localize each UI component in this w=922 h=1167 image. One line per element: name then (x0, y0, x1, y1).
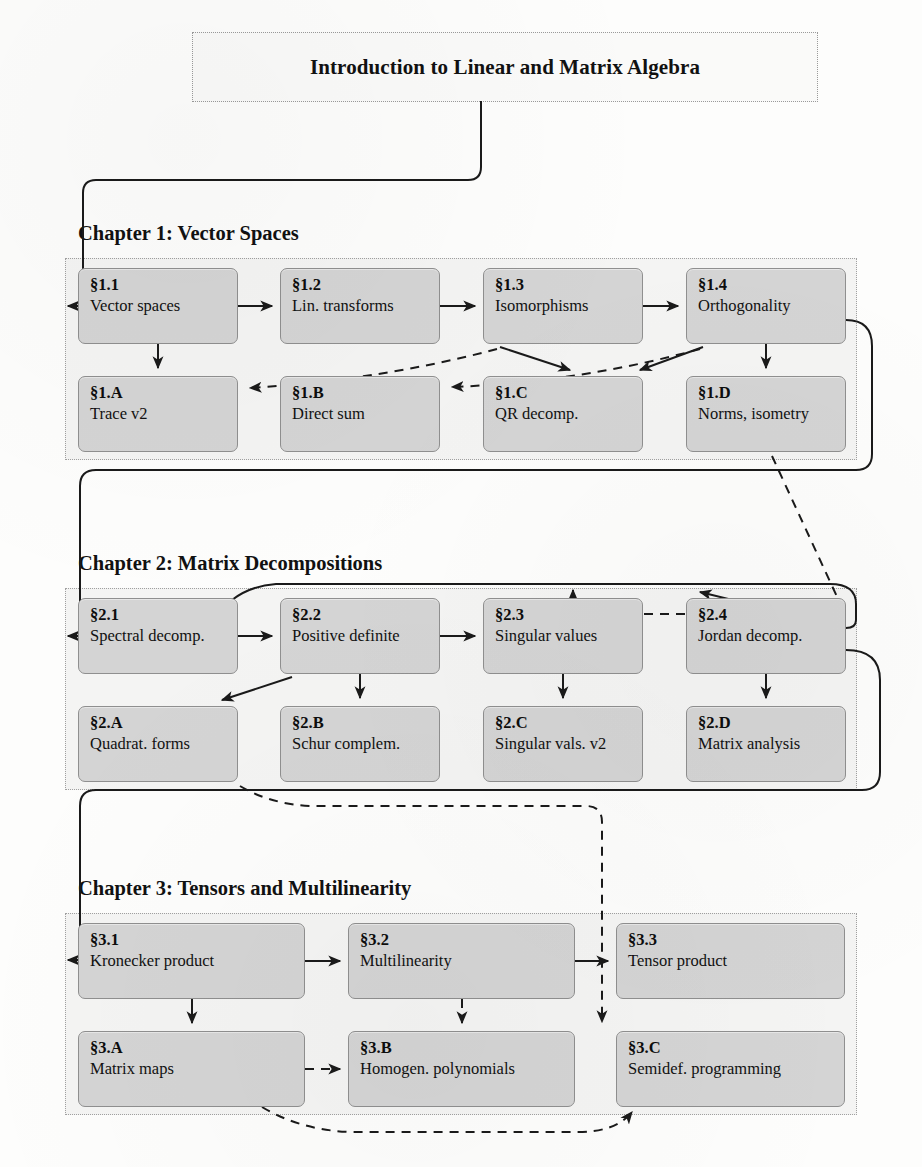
section-node-1-1[interactable]: §1.1Vector spaces (78, 268, 238, 344)
section-number: §1.A (90, 384, 227, 402)
section-number: §2.C (495, 714, 632, 732)
diagram-page: Introduction to Linear and Matrix Algebr… (0, 0, 922, 1167)
section-description: Jordan decomp. (698, 626, 835, 646)
section-number: §2.1 (90, 606, 227, 624)
section-node-3-B[interactable]: §3.BHomogen. polynomials (348, 1031, 575, 1107)
section-node-3-C[interactable]: §3.CSemidef. programming (616, 1031, 845, 1107)
section-description: Trace v2 (90, 404, 227, 424)
section-node-2-A[interactable]: §2.AQuadrat. forms (78, 706, 238, 782)
section-description: Quadrat. forms (90, 734, 227, 754)
section-description: Spectral decomp. (90, 626, 227, 646)
section-number: §3.1 (90, 931, 294, 949)
section-number: §2.3 (495, 606, 632, 624)
section-number: §3.C (628, 1039, 834, 1057)
section-number: §2.2 (292, 606, 429, 624)
edge-2-4-to-3-1 (68, 650, 880, 960)
section-node-1-B[interactable]: §1.BDirect sum (280, 376, 440, 452)
edge-1-4-to-2-1 (68, 320, 872, 636)
section-node-2-2[interactable]: §2.2Positive definite (280, 598, 440, 674)
section-number: §1.B (292, 384, 429, 402)
edge-2-2-to-2-A (222, 677, 292, 700)
section-number: §1.C (495, 384, 632, 402)
edge-1-D-to-2-3 (573, 456, 845, 614)
section-description: Homogen. polynomials (360, 1059, 564, 1079)
section-number: §1.4 (698, 276, 835, 294)
section-description: Matrix maps (90, 1059, 294, 1079)
section-node-2-3[interactable]: §2.3Singular values (483, 598, 643, 674)
section-number: §2.D (698, 714, 835, 732)
section-node-1-D[interactable]: §1.DNorms, isometry (686, 376, 846, 452)
section-node-3-2[interactable]: §3.2Multilinearity (348, 923, 575, 999)
section-number: §2.A (90, 714, 227, 732)
section-node-2-1[interactable]: §2.1Spectral decomp. (78, 598, 238, 674)
section-description: Vector spaces (90, 296, 227, 316)
section-node-1-4[interactable]: §1.4Orthogonality (686, 268, 846, 344)
section-description: Multilinearity (360, 951, 564, 971)
section-node-3-A[interactable]: §3.AMatrix maps (78, 1031, 305, 1107)
section-number: §3.2 (360, 931, 564, 949)
section-description: QR decomp. (495, 404, 632, 424)
section-node-1-2[interactable]: §1.2Lin. transforms (280, 268, 440, 344)
section-description: Singular values (495, 626, 632, 646)
section-description: Matrix analysis (698, 734, 835, 754)
section-description: Kronecker product (90, 951, 294, 971)
section-description: Singular vals. v2 (495, 734, 632, 754)
edge-1-4-to-1-C (640, 347, 703, 370)
section-number: §1.1 (90, 276, 227, 294)
section-number: §1.2 (292, 276, 429, 294)
section-number: §3.A (90, 1039, 294, 1057)
section-number: §2.B (292, 714, 429, 732)
section-number: §1.D (698, 384, 835, 402)
edge-3-A-to-3-C (262, 1107, 632, 1132)
section-description: Direct sum (292, 404, 429, 424)
section-node-1-C[interactable]: §1.CQR decomp. (483, 376, 643, 452)
section-description: Orthogonality (698, 296, 835, 316)
section-node-1-A[interactable]: §1.ATrace v2 (78, 376, 238, 452)
section-node-2-4[interactable]: §2.4Jordan decomp. (686, 598, 846, 674)
section-node-2-C[interactable]: §2.CSingular vals. v2 (483, 706, 643, 782)
section-number: §2.4 (698, 606, 835, 624)
section-description: Positive definite (292, 626, 429, 646)
section-description: Lin. transforms (292, 296, 429, 316)
section-node-3-1[interactable]: §3.1Kronecker product (78, 923, 305, 999)
section-node-2-D[interactable]: §2.DMatrix analysis (686, 706, 846, 782)
section-description: Isomorphisms (495, 296, 632, 316)
section-description: Schur complem. (292, 734, 429, 754)
edge-1-3-to-1-C (500, 347, 570, 370)
section-node-2-B[interactable]: §2.BSchur complem. (280, 706, 440, 782)
section-node-3-3[interactable]: §3.3Tensor product (616, 923, 845, 999)
section-number: §1.3 (495, 276, 632, 294)
section-node-1-3[interactable]: §1.3Isomorphisms (483, 268, 643, 344)
section-number: §3.B (360, 1039, 564, 1057)
section-number: §3.3 (628, 931, 834, 949)
section-description: Semidef. programming (628, 1059, 834, 1079)
section-description: Norms, isometry (698, 404, 835, 424)
section-description: Tensor product (628, 951, 834, 971)
